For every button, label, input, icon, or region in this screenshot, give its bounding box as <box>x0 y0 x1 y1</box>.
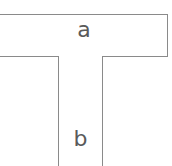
top-block-label: a <box>0 19 168 41</box>
stem-block-label: b <box>58 128 103 150</box>
